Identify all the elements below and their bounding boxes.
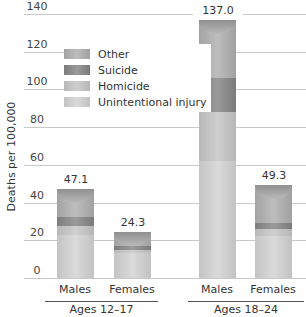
- y-tick-label: 40: [26, 189, 48, 202]
- legend-swatch-homicide: [64, 81, 90, 91]
- legend-item-homicide: Homicide: [64, 78, 207, 94]
- bar-segment-unintentional-injury: [114, 253, 151, 278]
- gridline: [24, 278, 306, 279]
- y-tick-label: 80: [26, 113, 48, 126]
- value-label: 137.0: [193, 4, 243, 17]
- y-tick-label: 100: [26, 75, 48, 88]
- bar-segment-suicide: [57, 217, 94, 226]
- legend-label: Homicide: [98, 80, 150, 93]
- y-tick-label: 0: [26, 264, 48, 277]
- x-category-label: Males: [45, 283, 105, 296]
- value-label: 49.3: [249, 169, 299, 182]
- y-axis-label: Deaths per 100,000: [5, 102, 18, 212]
- gridline: [24, 127, 306, 128]
- legend-swatch-other: [64, 49, 90, 59]
- bar-segment-homicide: [57, 226, 94, 234]
- gridline: [24, 14, 306, 15]
- legend-item-unintentional-injury: Unintentional injury: [64, 94, 207, 110]
- legend-label: Unintentional injury: [98, 96, 207, 109]
- group-underline: [188, 301, 304, 302]
- value-label: 24.3: [108, 216, 158, 229]
- legend-item-suicide: Suicide: [64, 62, 207, 78]
- bar: [57, 189, 94, 278]
- x-category-label: Females: [243, 283, 303, 296]
- legend-label: Suicide: [98, 64, 138, 77]
- bar-segment-suicide: [114, 246, 151, 250]
- x-category-label: Males: [187, 283, 247, 296]
- y-tick-label: 60: [26, 151, 48, 164]
- bar-segment-unintentional-injury: [199, 161, 236, 278]
- y-tick-label: 120: [26, 38, 48, 51]
- x-category-label: Females: [102, 283, 162, 296]
- legend-swatch-suicide: [64, 65, 90, 75]
- x-group-label: Ages 12–17: [42, 303, 162, 316]
- x-group-label: Ages 18–24: [186, 303, 306, 316]
- y-tick-label: 140: [26, 0, 48, 13]
- y-tick-label: 20: [26, 226, 48, 239]
- bar-segment-homicide: [114, 250, 151, 253]
- legend: Other Suicide Homicide Unintentional inj…: [64, 44, 211, 112]
- bar-segment-unintentional-injury: [255, 236, 292, 278]
- bar-segment-homicide: [255, 229, 292, 236]
- bar-segment-unintentional-injury: [57, 235, 94, 278]
- legend-item-other: Other: [64, 46, 207, 62]
- bar: [114, 232, 151, 278]
- bar-segment-homicide: [199, 112, 236, 161]
- value-label: 47.1: [51, 173, 101, 186]
- bar-segment-suicide: [255, 223, 292, 229]
- legend-label: Other: [98, 48, 129, 61]
- legend-swatch-unintentional: [64, 97, 90, 107]
- bar: [255, 185, 292, 278]
- stacked-bar-chart: Deaths per 100,000 020406080100120140 47…: [0, 0, 306, 317]
- gridline: [24, 165, 306, 166]
- group-underline: [45, 301, 158, 302]
